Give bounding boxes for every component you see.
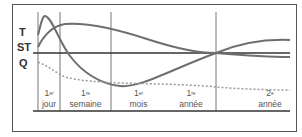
curve-ST (38, 24, 290, 57)
label-T: T (19, 26, 26, 38)
period-year1: 1reannée (166, 88, 216, 110)
chart-plot (0, 0, 302, 137)
label-ST: ST (17, 41, 31, 53)
period-day: 1erjour (38, 88, 60, 110)
label-Q: Q (19, 57, 28, 69)
period-week: 1resemaine (60, 88, 111, 110)
period-month: 1ermois (111, 88, 166, 110)
curve-T (38, 16, 290, 86)
curve-Q (38, 62, 290, 90)
period-year2: 2eannée (250, 88, 290, 110)
